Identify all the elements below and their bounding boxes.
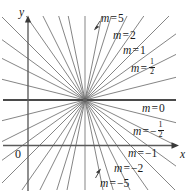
slope-label-m0-equals: = — [150, 102, 159, 114]
y-axis-label: y — [19, 7, 24, 19]
x-axis-arrowhead — [172, 142, 180, 149]
slope-label-m-negative-2-equals: = — [122, 162, 131, 174]
slope-label-m-negative-2: m=−2 — [114, 163, 143, 175]
slope-label-m5-value: 5 — [118, 12, 124, 24]
slope-label-m-half: m=12 — [131, 59, 155, 78]
slope-label-m-negative-1-equals: = — [136, 147, 145, 159]
slope-label-m5-equals: = — [109, 12, 118, 24]
fraction-denominator: 2 — [149, 68, 155, 76]
slope-label-m2-value: 2 — [130, 29, 136, 41]
slope-label-m5: m=5 — [101, 13, 124, 25]
slope-label-m2: m=2 — [113, 30, 136, 42]
slope-label-m-negative-1-value: −1 — [145, 147, 157, 159]
fraction-denominator: 2 — [158, 131, 164, 139]
fraction-numerator: 1 — [149, 58, 155, 66]
slope-label-m-negative-5-value: −5 — [117, 177, 129, 189]
slope-label-m0: m=0 — [142, 103, 165, 115]
slope-label-m1: m=1 — [123, 45, 146, 57]
y-axis-arrowhead — [25, 16, 31, 23]
slope-line — [57, 16, 112, 190]
slope-label-m-half-equals: = — [139, 62, 148, 74]
slope-label-m1-equals: = — [131, 44, 140, 56]
slope-label-m-negative-half-sign: − — [150, 125, 157, 137]
fraction-one-half-negative: 12 — [158, 121, 164, 140]
slope-label-m2-equals: = — [121, 29, 130, 41]
slope-label-m-negative-1: m=−1 — [128, 148, 157, 160]
slope-label-m-negative-half-equals: = — [141, 125, 150, 137]
slope-label-m-negative-2-value: −2 — [131, 162, 143, 174]
origin-label: 0 — [15, 148, 21, 160]
slope-label-m-negative-half: m=−12 — [133, 122, 164, 141]
line-family-figure: y x 0 m=5 m=2 m=1 m=12 m=0 m=−12 m=−1 m=… — [0, 0, 195, 191]
fraction-numerator: 1 — [158, 121, 164, 129]
x-axis-label: x — [180, 149, 185, 161]
slope-label-m-negative-5-equals: = — [108, 177, 117, 189]
slope-label-m-negative-5: m=−5 — [100, 178, 129, 190]
slope-line — [59, 16, 114, 190]
fraction-one-half: 12 — [149, 58, 155, 77]
common-point — [83, 98, 87, 102]
slope-label-m1-value: 1 — [140, 44, 146, 56]
figure-canvas — [0, 0, 195, 191]
slope-label-m0-value: 0 — [159, 102, 165, 114]
